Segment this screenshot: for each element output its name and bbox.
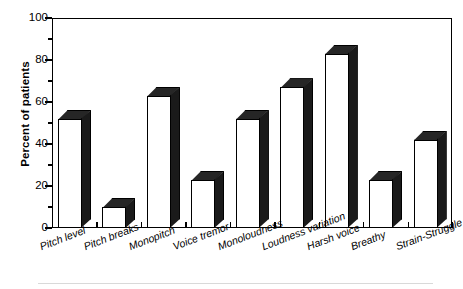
x-tick-major (230, 222, 231, 228)
y-tick-label: 40 (8, 138, 48, 150)
bar-side-face (81, 110, 91, 228)
bar-front-face (147, 96, 171, 228)
bar (325, 45, 358, 228)
y-tick-minor (48, 206, 52, 207)
bar-side-face (214, 171, 224, 228)
y-tick-minor (48, 38, 52, 39)
x-tick-major (408, 222, 409, 228)
bar (147, 87, 180, 228)
y-tick-label: 20 (8, 180, 48, 192)
bar-side-face (392, 171, 402, 228)
bar-side-face (259, 110, 269, 228)
y-tick-label: 0 (8, 222, 48, 234)
bar-side-face (170, 87, 180, 228)
bar (369, 171, 402, 228)
bar (414, 131, 447, 228)
bar-front-face (236, 119, 260, 228)
bar-side-face (348, 45, 358, 228)
y-tick-label: 80 (8, 54, 48, 66)
x-tick-major (141, 222, 142, 228)
bar-front-face (58, 119, 82, 228)
bar-chart: Percent of patients 020406080100 Pitch l… (0, 0, 463, 289)
x-tick-major (185, 222, 186, 228)
x-tick-major (363, 222, 364, 228)
bar-front-face (414, 140, 438, 228)
bar-side-face (437, 131, 447, 228)
y-tick-label: 100 (8, 12, 48, 24)
y-tick-minor (48, 164, 52, 165)
x-tick-major (52, 222, 53, 228)
y-tick-label: 60 (8, 96, 48, 108)
bar (191, 171, 224, 228)
bar (280, 78, 313, 228)
y-tick-minor (48, 122, 52, 123)
bar-front-face (369, 180, 393, 228)
bar-front-face (191, 180, 215, 228)
bar-front-face (325, 54, 349, 228)
bar (236, 110, 269, 228)
bar-side-face (303, 78, 313, 228)
bar (58, 110, 91, 228)
bottom-divider (38, 283, 433, 284)
x-tick-major (96, 222, 97, 228)
bar-front-face (280, 87, 304, 228)
y-tick-minor (48, 80, 52, 81)
